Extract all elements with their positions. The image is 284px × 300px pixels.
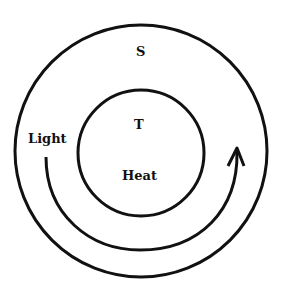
label-heat: Heat	[122, 168, 157, 183]
diagram-canvas: S T Heat Light	[0, 0, 284, 300]
light-to-heat-arrow	[46, 152, 237, 250]
outer-circle-s	[15, 25, 267, 277]
label-t: T	[134, 117, 144, 132]
inner-circle-t	[78, 90, 204, 216]
label-light: Light	[28, 131, 67, 146]
label-s: S	[136, 44, 145, 59]
